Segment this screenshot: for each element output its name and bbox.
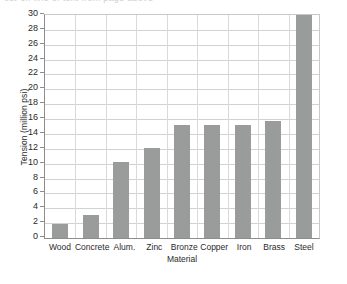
y-axis-tick-label: 22	[28, 67, 38, 78]
x-axis-tick-label: Zinc	[139, 241, 169, 255]
plot-area	[44, 14, 320, 239]
y-axis-tick-label: 10	[28, 157, 38, 168]
y-axis-tick-label: 14	[28, 127, 38, 138]
y-axis-ticks: 024681012141618202224262830	[0, 14, 44, 237]
bar-cell	[136, 15, 166, 238]
bar-cell	[228, 15, 258, 238]
bar-cell	[45, 15, 75, 238]
y-axis-tick-label: 30	[28, 8, 38, 19]
y-axis-tick-label: 26	[28, 38, 38, 49]
x-axis-tick-label: Concrete	[75, 241, 110, 255]
bar-cell	[75, 15, 105, 238]
bar-steel	[296, 15, 312, 238]
bar-wood	[52, 224, 68, 238]
bar-cell	[106, 15, 136, 238]
bar-alum	[113, 162, 129, 238]
y-axis-tick-label: 18	[28, 97, 38, 108]
x-axis-category-labels: WoodConcreteAlum.ZincBronzeCopperIronBra…	[45, 241, 319, 255]
bar-copper	[204, 125, 220, 238]
bar-bronze	[174, 125, 190, 238]
bar-cell	[197, 15, 227, 238]
y-axis-tick-label: 2	[33, 216, 38, 227]
bar-iron	[235, 125, 251, 238]
x-axis-tick-label: Brass	[259, 241, 289, 255]
bar-zinc	[144, 148, 160, 238]
y-axis-tick-label: 28	[28, 23, 38, 34]
y-axis-tick-label: 0	[33, 231, 38, 242]
bar-series	[45, 15, 319, 238]
bar-brass	[265, 121, 281, 238]
bar-cell	[289, 15, 319, 238]
y-axis-tick-label: 16	[28, 112, 38, 123]
bar-cell	[167, 15, 197, 238]
x-axis-tick-label: Alum.	[109, 241, 139, 255]
bar-cell	[258, 15, 288, 238]
y-axis-tick-label: 20	[28, 82, 38, 93]
x-axis-tick-label: Bronze	[169, 241, 199, 255]
y-axis-tick-label: 12	[28, 142, 38, 153]
x-axis-title: Material	[45, 254, 319, 264]
y-axis-tick-label: 6	[33, 186, 38, 197]
x-axis-tick-label: Copper	[199, 241, 229, 255]
bar-concrete	[83, 215, 99, 238]
bar-chart-figure: Tension (million psi) 024681012141618202…	[0, 0, 347, 284]
y-axis-tick-label: 24	[28, 53, 38, 64]
x-axis-tick-label: Steel	[289, 241, 319, 255]
y-axis-tick-label: 8	[33, 172, 38, 183]
x-axis-tick-label: Wood	[45, 241, 75, 255]
y-axis-tick-label: 4	[33, 201, 38, 212]
x-axis-tick-label: Iron	[229, 241, 259, 255]
